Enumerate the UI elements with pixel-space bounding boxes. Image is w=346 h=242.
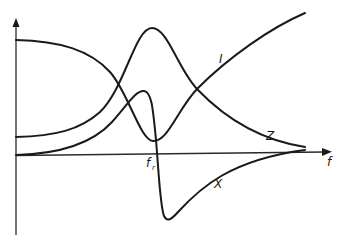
label-f-axis: f [327,155,333,169]
y-axis-arrow-icon [13,18,20,27]
label-resonance-subscript: r [152,164,156,172]
curve-z [16,28,305,147]
label-i: I [219,52,223,66]
resonance-diagram: I Z X f f r [0,0,346,242]
label-x: X [213,177,223,191]
label-z: Z [265,129,275,143]
